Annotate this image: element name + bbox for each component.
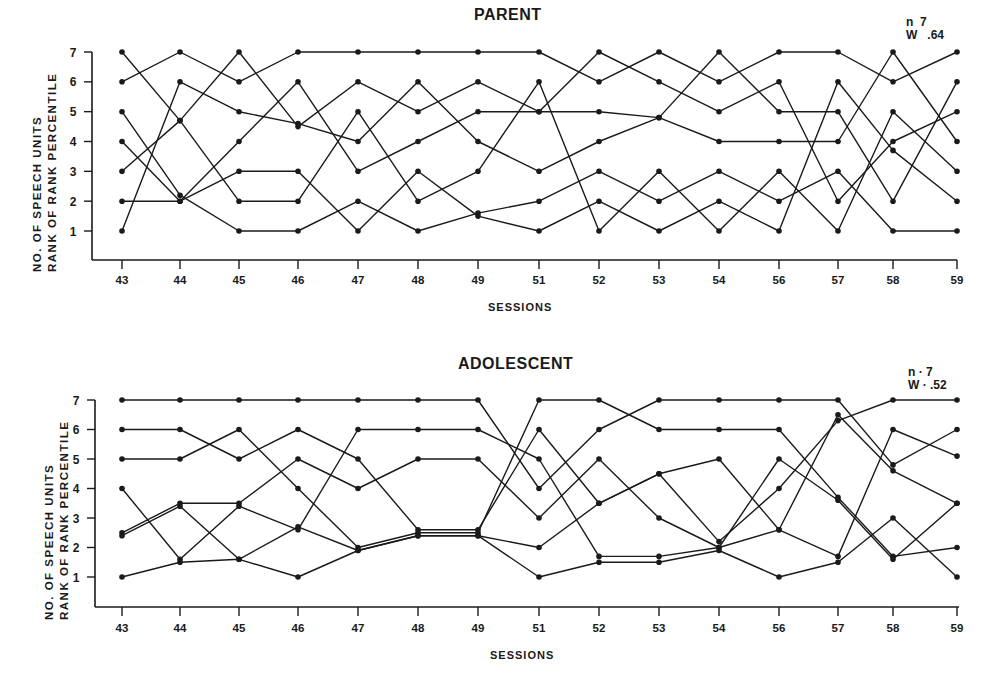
y-tick-label: 3	[70, 165, 77, 179]
data-point	[415, 109, 421, 115]
x-axis-label: SESSIONS	[490, 649, 554, 661]
data-point	[890, 554, 896, 560]
data-point	[295, 198, 301, 204]
x-tick-label: 53	[653, 622, 666, 634]
x-tick-label: 45	[233, 622, 246, 634]
data-point	[475, 530, 481, 536]
data-point	[716, 49, 722, 55]
data-point	[236, 49, 242, 55]
data-point	[536, 397, 542, 403]
x-tick-label: 56	[773, 622, 786, 634]
data-point	[355, 427, 361, 433]
data-point	[355, 169, 361, 175]
data-point	[954, 453, 960, 459]
data-point	[776, 527, 782, 533]
data-point	[776, 198, 782, 204]
x-tick-label: 54	[713, 622, 726, 634]
data-point	[890, 228, 896, 234]
parent-plot: 1234567434445464748495152535456575859	[0, 0, 993, 300]
data-point	[890, 79, 896, 85]
data-point	[716, 109, 722, 115]
data-point	[596, 79, 602, 85]
data-series	[119, 49, 960, 204]
data-point	[236, 109, 242, 115]
data-point	[119, 427, 125, 433]
data-series	[119, 397, 960, 559]
data-point	[355, 548, 361, 554]
data-point	[355, 456, 361, 462]
y-tick-label: 1	[70, 225, 77, 239]
data-point	[536, 169, 542, 175]
y-tick-label: 1	[73, 571, 80, 585]
data-point	[355, 198, 361, 204]
data-point	[177, 427, 183, 433]
data-point	[236, 503, 242, 509]
data-point	[890, 49, 896, 55]
data-point	[475, 139, 481, 145]
data-point	[716, 198, 722, 204]
data-point	[890, 109, 896, 115]
y-tick-label: 3	[73, 512, 80, 526]
data-point	[776, 109, 782, 115]
data-point	[236, 557, 242, 563]
data-point	[177, 456, 183, 462]
data-point	[656, 228, 662, 234]
data-point	[954, 545, 960, 551]
data-point	[835, 79, 841, 85]
x-tick-label: 46	[292, 622, 305, 634]
data-point	[475, 213, 481, 219]
data-point	[716, 456, 722, 462]
x-tick-label: 48	[412, 622, 425, 634]
data-point	[776, 527, 782, 533]
y-tick-label: 5	[70, 105, 77, 119]
data-point	[119, 397, 125, 403]
data-point	[835, 554, 841, 560]
data-point	[475, 79, 481, 85]
data-point	[295, 427, 301, 433]
x-tick-label: 49	[472, 622, 485, 634]
data-point	[716, 545, 722, 551]
data-point	[119, 79, 125, 85]
data-point	[954, 169, 960, 175]
x-tick-label: 52	[593, 622, 606, 634]
data-point	[716, 228, 722, 234]
x-tick-label: 53	[653, 274, 666, 286]
data-point	[415, 49, 421, 55]
data-point	[119, 198, 125, 204]
y-tick-label: 4	[70, 135, 77, 149]
y-tick-label: 7	[70, 46, 77, 60]
data-point	[835, 495, 841, 501]
data-point	[596, 456, 602, 462]
x-tick-label: 58	[887, 274, 900, 286]
data-point	[415, 533, 421, 539]
data-point	[295, 574, 301, 580]
y-axis-label-line1: NO. OF SPEECH UNITS	[42, 421, 57, 620]
data-point	[355, 139, 361, 145]
data-point	[656, 471, 662, 477]
x-tick-label: 57	[832, 274, 845, 286]
data-point	[415, 139, 421, 145]
data-point	[177, 192, 183, 198]
data-point	[596, 109, 602, 115]
data-point	[236, 79, 242, 85]
data-point	[415, 456, 421, 462]
data-point	[954, 139, 960, 145]
series-line	[122, 400, 957, 556]
data-point	[415, 169, 421, 175]
data-point	[295, 456, 301, 462]
data-point	[656, 397, 662, 403]
y-tick-label: 4	[73, 482, 80, 496]
data-point	[596, 554, 602, 560]
data-point	[954, 501, 960, 507]
stat-annotation: n · 7 W · .52	[908, 366, 947, 392]
data-point	[119, 530, 125, 536]
data-point	[177, 557, 183, 563]
data-series	[119, 456, 960, 562]
n-value: 7	[926, 365, 933, 379]
data-point	[890, 397, 896, 403]
data-point	[236, 501, 242, 507]
data-point	[776, 486, 782, 492]
data-point	[954, 574, 960, 580]
series-line	[122, 400, 957, 489]
data-point	[954, 109, 960, 115]
